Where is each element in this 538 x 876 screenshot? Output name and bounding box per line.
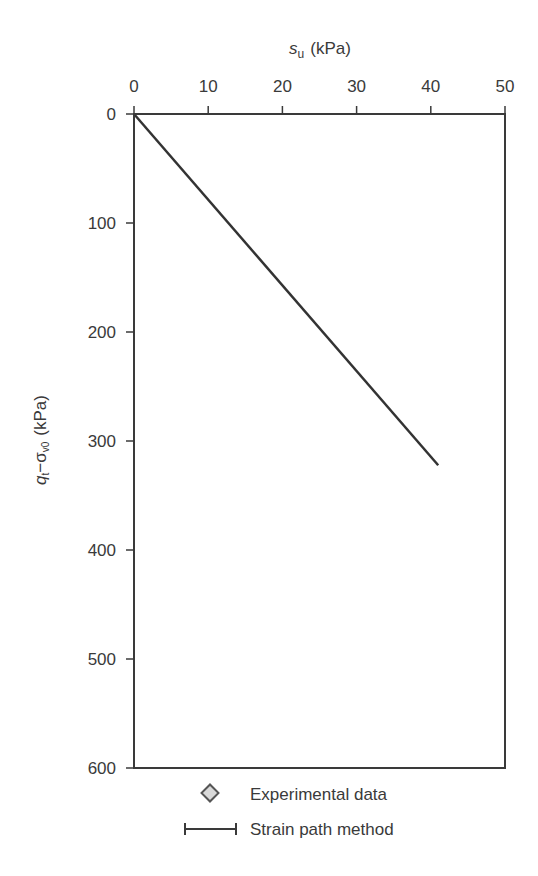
legend-label-strain-path: Strain path method — [250, 820, 394, 839]
legend-label-experimental: Experimental data — [250, 785, 388, 804]
x-tick-label: 10 — [199, 77, 218, 96]
y-axis-title: qt−σv0(kPa) — [31, 395, 51, 485]
chart: 01020304050 0100200300400500600 su(kPa) … — [0, 0, 538, 876]
legend-item-strain-path: Strain path method — [185, 820, 394, 839]
diamond-marker-icon — [202, 785, 219, 802]
y-axis-ticks: 0100200300400500600 — [88, 105, 134, 778]
y-tick-label: 400 — [88, 541, 116, 560]
x-tick-label: 40 — [421, 77, 440, 96]
reference-lines — [134, 114, 438, 465]
x-axis-ticks: 01020304050 — [129, 77, 514, 114]
x-tick-label: 30 — [347, 77, 366, 96]
y-tick-label: 500 — [88, 650, 116, 669]
nkt-line — [134, 114, 438, 465]
legend-item-experimental: Experimental data — [202, 785, 388, 804]
x-tick-label: 50 — [496, 77, 515, 96]
plot-frame — [134, 114, 505, 768]
x-tick-label: 20 — [273, 77, 292, 96]
y-tick-label: 600 — [88, 759, 116, 778]
x-tick-label: 0 — [129, 77, 138, 96]
y-tick-label: 100 — [88, 214, 116, 233]
x-axis-title: su(kPa) — [289, 39, 351, 61]
y-tick-label: 0 — [107, 105, 116, 124]
y-tick-label: 300 — [88, 432, 116, 451]
errorbar-icon — [185, 823, 236, 835]
legend: Experimental data Strain path method — [185, 785, 394, 839]
y-tick-label: 200 — [88, 323, 116, 342]
